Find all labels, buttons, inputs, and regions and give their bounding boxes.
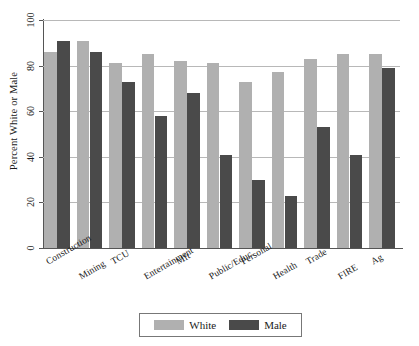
bar bbox=[239, 82, 252, 248]
bar-group bbox=[174, 20, 200, 248]
y-tick-label-80: 80 bbox=[26, 53, 36, 79]
bar-group bbox=[304, 20, 330, 248]
bar bbox=[272, 72, 285, 248]
legend-swatch-white bbox=[154, 320, 184, 330]
legend-label: White bbox=[189, 320, 216, 331]
bar bbox=[187, 93, 200, 248]
chart-legend: WhiteMale bbox=[139, 313, 302, 337]
x-axis-label: TCU bbox=[109, 248, 131, 267]
bar-group bbox=[109, 20, 135, 248]
bar-group bbox=[239, 20, 265, 248]
bar bbox=[109, 63, 122, 248]
bar bbox=[122, 82, 135, 248]
bar bbox=[142, 54, 155, 248]
y-tick-label-60: 60 bbox=[26, 98, 36, 124]
legend-swatch-male bbox=[229, 320, 259, 330]
bar bbox=[382, 68, 395, 248]
bar-group bbox=[44, 20, 70, 248]
bar-group bbox=[142, 20, 168, 248]
bar bbox=[174, 61, 187, 248]
y-tick-label-100: 100 bbox=[26, 7, 36, 33]
bar bbox=[317, 127, 330, 248]
bar bbox=[155, 116, 168, 248]
bar bbox=[252, 180, 265, 248]
x-axis-labels: ConstructionMiningTCUEntertainmentMftPub… bbox=[0, 248, 419, 308]
x-axis-label: Health bbox=[272, 260, 300, 282]
legend-label: Male bbox=[264, 320, 287, 331]
bar bbox=[57, 41, 70, 248]
legend-item-male[interactable]: Male bbox=[229, 320, 287, 331]
bar bbox=[369, 54, 382, 248]
bar bbox=[44, 52, 57, 248]
x-axis-label: Ag bbox=[369, 252, 385, 267]
x-axis-label: Mining bbox=[77, 258, 107, 282]
bar bbox=[337, 54, 350, 248]
bar-group bbox=[369, 20, 395, 248]
y-tick-label-40: 40 bbox=[26, 144, 36, 170]
bar-chart: Percent White or Male 020406080100 Const… bbox=[0, 0, 419, 346]
x-axis-label: FIRE bbox=[337, 262, 361, 282]
y-axis-title: Percent White or Male bbox=[7, 5, 21, 237]
legend-item-white[interactable]: White bbox=[154, 320, 216, 331]
bar bbox=[304, 59, 317, 248]
bar bbox=[207, 63, 220, 248]
y-tick-label-20: 20 bbox=[26, 189, 36, 215]
x-axis-label: Trade bbox=[304, 247, 329, 268]
bar bbox=[350, 155, 363, 248]
bar-group bbox=[272, 20, 298, 248]
bar bbox=[285, 196, 298, 248]
bar-group bbox=[337, 20, 363, 248]
bars-layer bbox=[43, 20, 400, 248]
bar bbox=[90, 52, 103, 248]
bar bbox=[220, 155, 233, 248]
bar-group bbox=[77, 20, 103, 248]
bar-group bbox=[207, 20, 233, 248]
bar bbox=[77, 41, 90, 248]
